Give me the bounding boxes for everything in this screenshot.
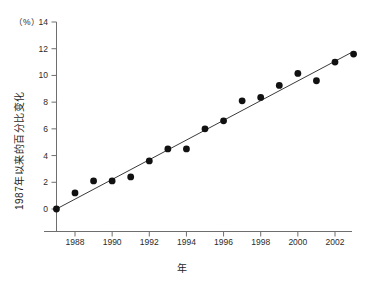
x-tick-label: 1998: [251, 237, 270, 247]
data-point: [220, 117, 227, 124]
data-point: [276, 82, 283, 89]
data-point: [294, 70, 301, 77]
x-axis-title: 年: [177, 262, 188, 274]
data-point: [183, 145, 190, 152]
y-tick-label: 2: [43, 177, 48, 187]
y-tick-label: 4: [43, 151, 48, 161]
x-axis-ticks: 19881990199219941996199820002002: [66, 232, 345, 248]
data-point: [313, 77, 320, 84]
y-tick-label: 12: [39, 44, 49, 54]
y-axis-unit-label: （%）: [14, 17, 40, 27]
y-tick-label: 0: [43, 204, 48, 214]
data-point: [109, 178, 116, 185]
data-point: [257, 94, 264, 101]
y-tick-label: 14: [39, 17, 49, 27]
data-point: [164, 145, 171, 152]
x-tick-label: 1996: [214, 237, 233, 247]
x-tick-label: 1988: [66, 237, 85, 247]
chart-container: （%） 1987年以来的百分比变化 年 02468101214 19881990…: [0, 0, 365, 287]
y-axis-title: 1987年以来的百分比变化: [13, 91, 25, 210]
scatter-chart: （%） 1987年以来的百分比变化 年 02468101214 19881990…: [0, 0, 365, 287]
data-point: [72, 190, 79, 197]
y-tick-label: 10: [39, 70, 49, 80]
y-tick-label: 6: [43, 124, 48, 134]
data-point: [53, 206, 60, 213]
x-tick-label: 1992: [140, 237, 159, 247]
y-axis-ticks: 02468101214: [39, 17, 57, 214]
data-point: [202, 125, 209, 132]
data-point: [90, 178, 97, 185]
y-tick-label: 8: [43, 97, 48, 107]
data-point: [332, 59, 339, 66]
x-tick-label: 2002: [326, 237, 345, 247]
x-tick-label: 1994: [177, 237, 196, 247]
data-point: [127, 174, 134, 181]
data-points-group: [53, 51, 357, 213]
x-tick-label: 2000: [288, 237, 307, 247]
data-point: [239, 97, 246, 104]
data-point: [350, 51, 357, 58]
x-tick-label: 1990: [103, 237, 122, 247]
data-point: [146, 158, 153, 165]
